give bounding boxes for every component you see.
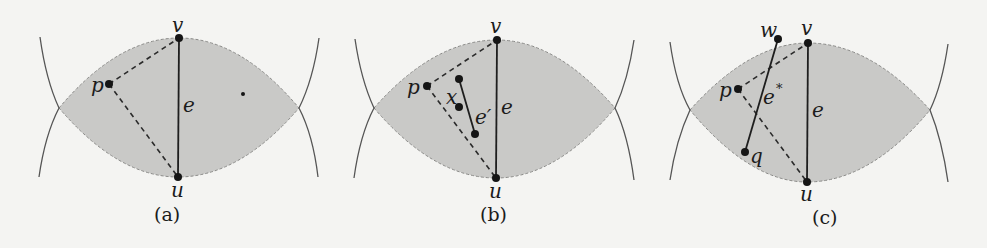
label-p: p [719,78,732,102]
point-p [105,80,113,88]
figure-svg: v u p e (a) v u p x e′ e (b) [0,0,987,248]
left-arc [354,39,374,178]
label-u: u [800,182,813,206]
caption-a: (a) [154,203,180,225]
panel-b: v u p x e′ e (b) [354,14,634,225]
edge-e [178,38,179,177]
point-p [734,85,742,93]
e-prime-endpoint-top [455,75,463,83]
e-prime-endpoint-bottom [471,130,479,138]
label-u: u [489,179,502,203]
label-u: u [171,178,184,202]
label-e-star: e [763,85,775,109]
label-e-prime: e′ [475,105,492,129]
vertex-v [804,39,812,47]
edge-e [807,43,808,182]
label-v: v [172,13,184,37]
panel-c: v w u q p e * e (c) [670,16,948,228]
label-e: e [183,93,195,117]
label-e: e [812,98,824,122]
label-q: q [750,144,763,168]
caption-c: (c) [812,206,837,228]
figure-canvas: v u p e (a) v u p x e′ e (b) [0,0,987,248]
lens-region [690,43,930,182]
label-v: v [801,16,813,40]
left-arc [39,37,59,177]
stray-dot [241,92,245,96]
label-e-star-superscript: * [776,81,783,96]
lens-region [374,40,615,178]
right-arc [615,40,634,180]
label-w: w [760,18,777,42]
vertex-q [741,148,749,156]
edge-e [496,40,497,178]
point-p [423,82,431,90]
left-arc [670,42,690,180]
panel-a: v u p e (a) [39,13,319,225]
label-e: e [501,95,513,119]
caption-b: (b) [480,203,507,225]
label-p: p [91,73,104,97]
right-arc [930,44,948,182]
right-arc [299,38,319,177]
label-p: p [407,75,420,99]
label-x: x [446,85,457,109]
label-v: v [490,14,502,38]
